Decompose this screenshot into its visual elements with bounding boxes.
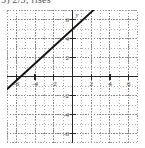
plot-area: -6-4-2246642-2-4-6 y xyxy=(7,10,138,143)
svg-text:-4: -4 xyxy=(63,111,69,119)
svg-text:-6: -6 xyxy=(63,130,69,138)
svg-text:4: 4 xyxy=(108,80,112,88)
graph-screenshot: 5) 2/3; rises -6-4-2246642-2-4-6 y xyxy=(0,0,145,148)
svg-text:-2: -2 xyxy=(51,80,57,88)
svg-text:-2: -2 xyxy=(63,92,69,100)
coordinate-plane-svg: -6-4-2246642-2-4-6 y xyxy=(7,10,138,143)
svg-text:6: 6 xyxy=(127,80,131,88)
svg-text:6: 6 xyxy=(66,16,70,24)
caption-text: 5) 2/3; rises xyxy=(1,0,144,4)
svg-text:-4: -4 xyxy=(32,80,38,88)
svg-text:2: 2 xyxy=(66,54,70,62)
svg-text:2: 2 xyxy=(89,80,93,88)
